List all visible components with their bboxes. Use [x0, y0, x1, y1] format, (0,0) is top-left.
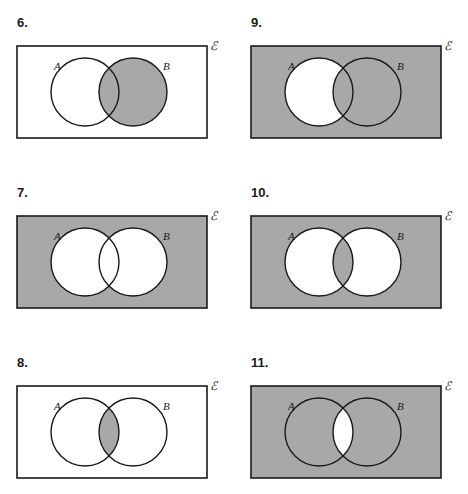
universal-set-label: ℰ	[444, 39, 453, 53]
diagram-9-number: 9.	[251, 16, 262, 29]
diagram-6-venn: A B ℰ	[7, 38, 227, 148]
diagram-7: 7. A B ℰ	[0, 170, 234, 340]
diagram-6: 6. A B ℰ	[0, 0, 234, 170]
universal-set-label: ℰ	[444, 209, 453, 223]
diagram-10: 10. A B ℰ	[234, 170, 468, 340]
set-b-label: B	[163, 60, 170, 72]
set-a-label: A	[53, 230, 61, 242]
diagram-9-figure: A B ℰ	[241, 38, 461, 148]
set-a-label: A	[53, 400, 61, 412]
diagram-7-figure: A B ℰ	[7, 208, 227, 318]
diagram-10-figure: A B ℰ	[241, 208, 461, 318]
diagram-8-figure: A B ℰ	[7, 378, 227, 488]
diagram-8: 8. A B ℰ	[0, 340, 234, 494]
diagram-11-figure: A B ℰ	[241, 378, 461, 488]
set-b-label: B	[397, 60, 404, 72]
set-a-label: A	[287, 230, 295, 242]
worksheet-sheet: 6. A B ℰ 9.	[0, 0, 468, 494]
diagram-8-venn: A B ℰ	[7, 378, 227, 488]
diagram-11: 11. A B ℰ	[234, 340, 468, 494]
set-a-label: A	[287, 60, 295, 72]
diagram-11-venn: A B ℰ	[241, 378, 461, 488]
diagram-7-number: 7.	[17, 186, 28, 199]
universal-set-label: ℰ	[210, 209, 219, 223]
set-a-label: A	[53, 60, 61, 72]
universal-set-label: ℰ	[444, 379, 453, 393]
diagram-7-venn: A B ℰ	[7, 208, 227, 318]
set-b-label: B	[397, 230, 404, 242]
diagram-9: 9. A B ℰ	[234, 0, 468, 170]
set-b-label: B	[163, 400, 170, 412]
diagram-11-number: 11.	[251, 356, 268, 369]
diagram-6-figure: A B ℰ	[7, 38, 227, 148]
diagram-6-number: 6.	[17, 16, 28, 29]
diagram-10-number: 10.	[251, 186, 269, 199]
diagram-9-venn: A B ℰ	[241, 38, 461, 148]
diagram-8-number: 8.	[17, 356, 28, 369]
diagram-10-venn: A B ℰ	[241, 208, 461, 318]
set-b-label: B	[163, 230, 170, 242]
universal-set-label: ℰ	[210, 379, 219, 393]
set-b-label: B	[397, 400, 404, 412]
set-a-label: A	[287, 400, 295, 412]
universal-set-label: ℰ	[210, 39, 219, 53]
